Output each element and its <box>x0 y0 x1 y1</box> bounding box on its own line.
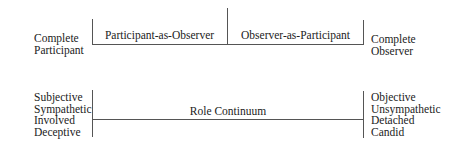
complete-observer-line1: Complete <box>371 33 416 45</box>
complete-observer-label: Complete Observer <box>371 33 416 57</box>
participant-as-observer-label: Participant-as-Observer <box>92 29 227 41</box>
attribute-deceptive: Deceptive <box>34 127 92 139</box>
right-attributes-list: Objective Unsympathetic Detached Candid <box>371 92 441 139</box>
left-attributes-list: Subjective Sympathetic Involved Deceptiv… <box>34 92 92 139</box>
complete-participant-line2: Participant <box>34 44 84 56</box>
attribute-candid: Candid <box>371 127 441 139</box>
observer-as-participant-label: Observer-as-Participant <box>228 29 363 41</box>
attribute-subjective: Subjective <box>34 92 92 104</box>
role-continuum-label: Role Continuum <box>92 105 364 117</box>
complete-participant-line1: Complete <box>34 32 84 44</box>
attribute-objective: Objective <box>371 92 441 104</box>
right-bracket-vertical <box>363 20 364 45</box>
top-baseline <box>92 44 364 45</box>
complete-observer-line2: Observer <box>371 45 416 57</box>
complete-participant-label: Complete Participant <box>34 32 84 56</box>
continuum-line <box>92 119 364 120</box>
